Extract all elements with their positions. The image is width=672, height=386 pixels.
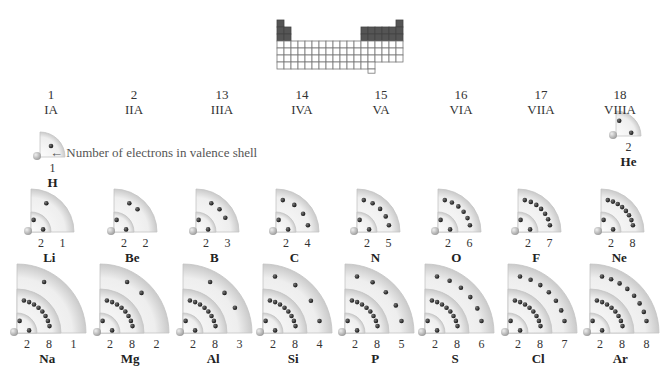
electron — [208, 280, 213, 285]
callout-text: Number of electrons in valence shell — [66, 145, 257, 160]
shell-count: 1 — [66, 337, 82, 352]
group-header-13: 13IIIA — [192, 87, 252, 117]
nucleus — [269, 227, 277, 235]
element-symbol: Si — [273, 351, 313, 367]
group-header-16: 16VIA — [431, 87, 491, 117]
electron — [32, 302, 37, 307]
table-cell — [305, 62, 312, 69]
shell-count: 2 — [198, 236, 214, 251]
electron — [139, 291, 144, 296]
shell-count: 2 — [138, 236, 154, 251]
nucleus — [338, 328, 346, 336]
shell-count: 5 — [381, 236, 397, 251]
electron — [371, 314, 376, 319]
element-symbol: Na — [27, 351, 67, 367]
electron — [548, 223, 553, 228]
element-symbol: Mg — [110, 351, 150, 367]
electron — [292, 203, 297, 208]
nucleus — [511, 227, 519, 235]
shell-count: 2 — [149, 337, 165, 352]
electron — [374, 319, 379, 324]
electron — [595, 298, 600, 303]
shell-count: 8 — [287, 337, 303, 352]
electron — [276, 218, 281, 223]
electron — [41, 227, 46, 232]
electron — [543, 211, 548, 216]
electron — [508, 319, 513, 324]
electron — [528, 278, 533, 283]
electron — [606, 198, 611, 203]
electron — [110, 300, 115, 305]
nucleus — [501, 328, 509, 336]
electron — [529, 200, 534, 205]
electron — [202, 305, 207, 310]
electron — [547, 290, 552, 295]
electron — [605, 302, 610, 307]
electron — [456, 204, 461, 209]
electron — [518, 218, 523, 223]
element-symbol: P — [355, 351, 395, 367]
nucleus — [350, 227, 358, 235]
mini-periodic-table — [277, 20, 403, 73]
electron — [17, 319, 22, 324]
table-cell — [277, 20, 284, 27]
electron — [188, 298, 193, 303]
group-number: 14 — [272, 87, 332, 102]
electron — [394, 303, 399, 308]
table-cell — [333, 62, 340, 69]
table-cell — [284, 41, 291, 48]
shell-count: 2 — [265, 337, 281, 352]
table-cell — [305, 41, 312, 48]
shell-count: 4 — [312, 337, 328, 352]
table-cell — [354, 48, 361, 55]
electron — [617, 119, 622, 124]
table-cell — [333, 48, 340, 55]
table-cell — [382, 34, 389, 41]
electron — [129, 319, 134, 324]
electron — [289, 314, 294, 319]
group-number: 2 — [104, 87, 164, 102]
table-cell — [368, 27, 375, 34]
table-cell — [347, 62, 354, 69]
table-cell — [291, 62, 298, 69]
electron — [438, 218, 443, 223]
table-cell — [375, 55, 382, 62]
element-symbol: Li — [29, 250, 69, 266]
shell-count: 2 — [102, 337, 118, 352]
group-roman: VIIA — [511, 102, 571, 117]
electron — [601, 218, 606, 223]
table-cell — [368, 55, 375, 62]
electron — [105, 298, 110, 303]
group-header-18: 18VIIIA — [590, 87, 650, 117]
group-roman: IVA — [272, 102, 332, 117]
electron — [629, 131, 634, 136]
electron — [110, 328, 115, 333]
electron — [273, 274, 278, 279]
valence-callout: ← Number of electrons in valence shell — [50, 145, 257, 161]
nucleus — [176, 328, 184, 336]
electron — [196, 218, 201, 223]
shell-count: 1 — [45, 161, 61, 176]
electron — [27, 328, 32, 333]
electron — [435, 274, 440, 279]
electron — [27, 300, 32, 305]
shell-count: 2 — [33, 236, 49, 251]
atom-ar — [583, 264, 659, 336]
table-cell — [284, 55, 291, 62]
electron — [518, 328, 523, 333]
electron — [448, 309, 453, 314]
element-symbol: N — [355, 250, 395, 266]
nucleus — [189, 227, 197, 235]
nucleus — [33, 152, 41, 160]
group-roman: VIA — [431, 102, 491, 117]
electron — [455, 324, 460, 329]
electron — [355, 328, 360, 333]
table-cell — [298, 62, 305, 69]
table-cell — [340, 48, 347, 55]
table-cell — [396, 27, 403, 34]
table-cell — [389, 55, 396, 62]
electron — [629, 218, 634, 223]
electron — [292, 319, 297, 324]
group-number: 15 — [351, 87, 411, 102]
nucleus — [431, 227, 439, 235]
